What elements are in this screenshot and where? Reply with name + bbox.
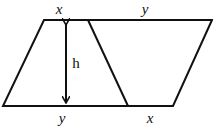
- parallelogram-diagram: x y h y x: [0, 0, 213, 128]
- label-top-right-y: y: [140, 1, 149, 17]
- diagram-canvas: x y h y x: [0, 0, 213, 128]
- label-bottom-left-y: y: [57, 110, 66, 126]
- dividing-line: [88, 20, 128, 106]
- label-height-h: h: [72, 55, 80, 71]
- label-bottom-right-x: x: [146, 110, 154, 126]
- label-top-left-x: x: [55, 1, 63, 17]
